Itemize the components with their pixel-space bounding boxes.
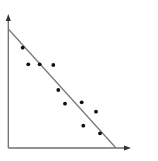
trend-line [8, 29, 116, 148]
data-point [98, 131, 102, 135]
data-points [21, 46, 102, 135]
chart-axes [6, 14, 131, 151]
x-axis-arrow-icon [124, 146, 131, 151]
data-point [80, 100, 84, 104]
data-point [81, 124, 85, 128]
data-point [26, 62, 30, 66]
data-point [38, 62, 42, 66]
scatter-chart [0, 0, 158, 161]
data-point [51, 63, 55, 67]
regression-line [8, 29, 116, 148]
data-point [56, 88, 60, 92]
data-point [63, 102, 67, 106]
data-point [21, 46, 25, 50]
data-point [94, 110, 98, 114]
y-axis-arrow-icon [6, 14, 11, 21]
